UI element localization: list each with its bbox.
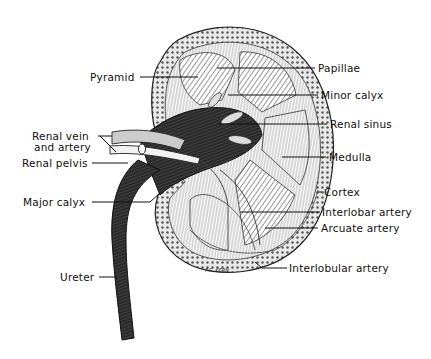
kidney-illustration	[0, 0, 431, 359]
label-medulla: Medulla	[329, 151, 372, 163]
artist-signature: P.S. KERN	[205, 267, 229, 273]
ureter	[112, 160, 160, 340]
label-ureter: Ureter	[60, 271, 94, 283]
label-papillae: Papillae	[318, 62, 360, 74]
label-renal-pelvis: Renal pelvis	[22, 157, 88, 169]
label-interlobar-artery: Interlobar artery	[322, 206, 412, 218]
label-major-calyx: Major calyx	[23, 196, 85, 208]
label-cortex: Cortex	[324, 186, 360, 198]
kidney-diagram: Pyramid Renal vein and artery Renal pelv…	[0, 0, 431, 359]
label-and-artery: and artery	[34, 141, 91, 153]
label-renal-sinus: Renal sinus	[330, 118, 392, 130]
label-interlobular-artery: Interlobular artery	[289, 262, 389, 274]
label-arcuate-artery: Arcuate artery	[321, 222, 400, 234]
label-pyramid: Pyramid	[90, 71, 135, 83]
label-minor-calyx: Minor calyx	[321, 89, 383, 101]
